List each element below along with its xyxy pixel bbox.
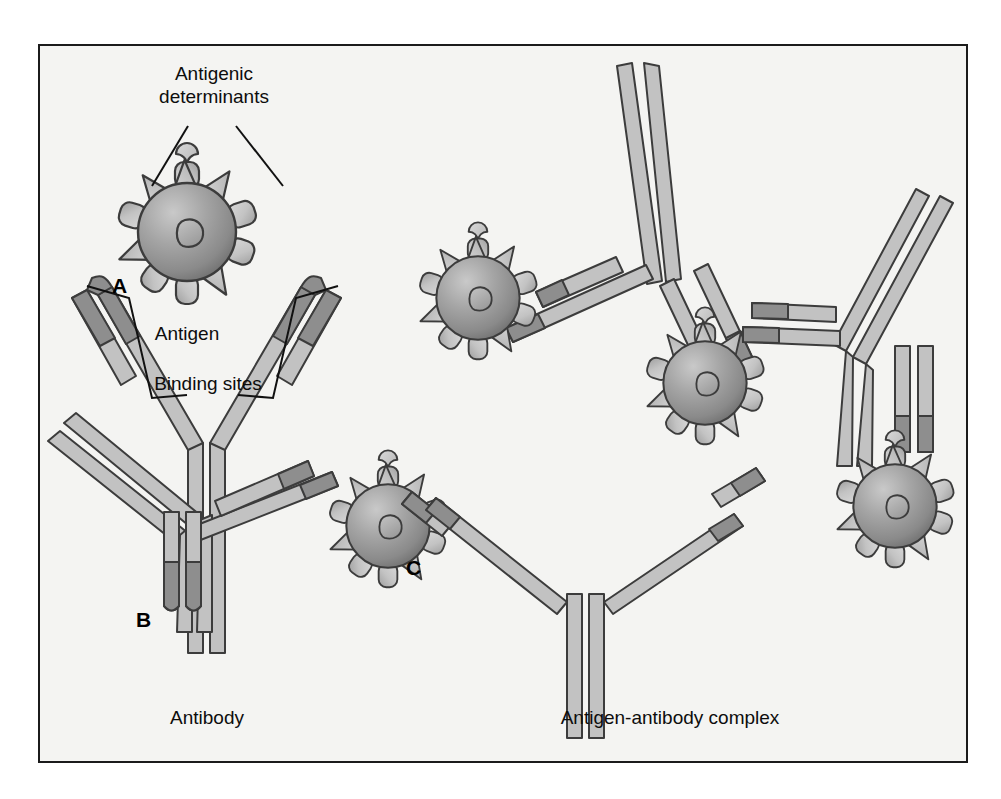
antigen-caption: Antigen [155, 322, 219, 345]
complex-caption: Antigen-antibody complex [561, 706, 780, 729]
figure-stage: Antigenic determinants A Antigen Binding… [0, 0, 1001, 799]
panel-letter-a: A [112, 274, 127, 298]
figure-frame: Antigenic determinants A Antigen Binding… [38, 44, 968, 763]
leader-line-right [236, 126, 283, 186]
panel-a-artwork [114, 126, 283, 304]
binding-sites-label: Binding sites [154, 372, 262, 395]
antigenic-determinants-label: Antigenic determinants [159, 62, 269, 108]
figure-artwork [40, 46, 970, 765]
panel-letter-c: C [406, 556, 421, 580]
panel-letter-b: B [136, 608, 151, 632]
antigen-a [114, 143, 258, 304]
antibody-caption: Antibody [170, 706, 244, 729]
